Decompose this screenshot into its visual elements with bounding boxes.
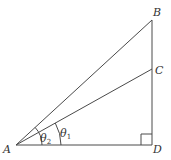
label-c: C	[155, 64, 164, 77]
triangle-diagram: A B C D θ2 θ1	[0, 0, 171, 160]
segment-ab	[16, 20, 152, 145]
label-theta1: θ1	[60, 127, 71, 141]
label-theta2: θ2	[40, 132, 51, 146]
label-d: D	[152, 143, 162, 156]
label-b: B	[152, 6, 161, 19]
right-angle-marker	[141, 134, 152, 145]
segment-ac	[16, 69, 152, 145]
label-a: A	[2, 143, 11, 156]
